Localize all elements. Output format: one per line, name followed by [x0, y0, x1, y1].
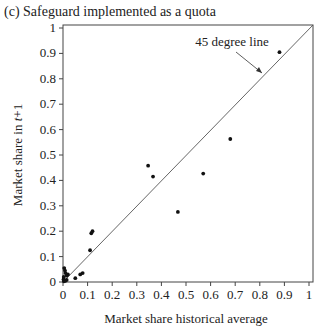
y-tick-label: 0 [50, 274, 57, 289]
x-tick-label: 0.4 [153, 287, 170, 302]
y-axis-label: Market share in t+1 [10, 104, 25, 206]
y-tick-label: 0.3 [40, 198, 56, 213]
x-tick-label: 0 [60, 287, 67, 302]
y-tick-label: 0.2 [40, 223, 56, 238]
x-tick-label: 1 [306, 287, 313, 302]
x-tick-label: 0.1 [79, 287, 95, 302]
x-tick-label: 0.5 [178, 287, 194, 302]
data-point [65, 278, 69, 282]
data-point [78, 272, 82, 276]
data-point [89, 231, 93, 235]
arrowhead-icon [256, 67, 262, 73]
data-point [278, 50, 282, 54]
45-degree-line [63, 25, 313, 282]
chart-title: (c) Safeguard implemented as a quota [4, 4, 217, 20]
y-tick-label: 0.9 [40, 45, 56, 60]
x-tick-label: 0.9 [276, 287, 292, 302]
data-point [88, 248, 92, 252]
y-tick-label: 0.8 [40, 71, 56, 86]
x-tick-label: 0.3 [129, 287, 145, 302]
y-tick-label: 0.6 [40, 122, 57, 137]
x-tick-label: 0.8 [252, 287, 268, 302]
data-point [151, 175, 155, 179]
x-tick-label: 0.6 [202, 287, 219, 302]
data-point [201, 172, 205, 176]
scatter-chart: (c) Safeguard implemented as a quota 00.… [0, 0, 334, 328]
plot-area: 00.10.20.30.40.50.60.70.80.9100.10.20.30… [40, 20, 313, 302]
x-tick-label: 0.2 [104, 287, 120, 302]
data-point [176, 210, 180, 214]
y-tick-label: 0.5 [40, 147, 56, 162]
data-point [62, 266, 66, 270]
data-points [62, 50, 282, 283]
annotation-label: 45 degree line [195, 34, 269, 49]
data-point [73, 276, 77, 280]
y-tick-label: 0.7 [40, 96, 57, 111]
data-point [146, 164, 150, 168]
y-tick-label: 0.1 [40, 249, 56, 264]
y-tick-label: 1 [50, 20, 57, 35]
y-tick-label: 0.4 [40, 172, 57, 187]
x-axis-label: Market share historical average [104, 311, 268, 326]
x-tick-label: 0.7 [227, 287, 244, 302]
data-point [228, 137, 232, 141]
